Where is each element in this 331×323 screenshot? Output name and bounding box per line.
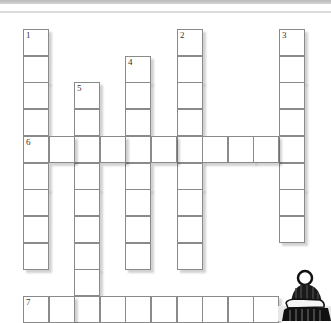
crossword-cell[interactable] (125, 136, 151, 163)
crossword-cell[interactable]: 2 (177, 29, 203, 56)
crossword-cell[interactable] (228, 136, 254, 163)
crossword-cell[interactable] (100, 296, 126, 323)
clue-number: 2 (180, 30, 185, 41)
crossword-cell[interactable] (23, 82, 49, 109)
crossword-cell[interactable]: 4 (125, 56, 151, 83)
crossword-cell[interactable] (279, 136, 305, 163)
crossword-cell[interactable] (279, 163, 305, 190)
crossword-cell[interactable] (74, 243, 100, 270)
crossword-cell[interactable] (125, 82, 151, 109)
crossword-cell[interactable] (177, 56, 203, 83)
crossword-cell[interactable] (23, 189, 49, 216)
crossword-cell[interactable] (125, 296, 151, 323)
crossword-cell[interactable] (74, 189, 100, 216)
crossword-cell[interactable] (23, 56, 49, 83)
crossword-cell[interactable] (202, 296, 228, 323)
crossword-cell[interactable] (202, 136, 228, 163)
crossword-cell[interactable] (74, 269, 100, 296)
crossword-cell[interactable] (177, 82, 203, 109)
crossword-cell[interactable] (177, 136, 203, 163)
clue-number: 7 (26, 297, 31, 308)
crossword-cell[interactable] (125, 189, 151, 216)
clue-number: 5 (77, 83, 82, 94)
crossword-cell[interactable] (125, 216, 151, 243)
crossword-cell[interactable] (49, 296, 75, 323)
crossword-cell[interactable] (177, 243, 203, 270)
crossword-cell[interactable] (23, 109, 49, 136)
crossword-cell[interactable]: 1 (23, 29, 49, 56)
crossword-cell[interactable] (151, 136, 177, 163)
crossword-cell[interactable] (279, 109, 305, 136)
clue-number: 6 (26, 137, 31, 148)
crossword-cell[interactable] (23, 163, 49, 190)
crossword-cell[interactable] (279, 216, 305, 243)
clue-number: 1 (26, 30, 31, 41)
crossword-cell[interactable] (279, 56, 305, 83)
crossword-cell[interactable]: 3 (279, 29, 305, 56)
crossword-cell[interactable]: 5 (74, 82, 100, 109)
crossword-cell[interactable] (177, 296, 203, 323)
crossword-cell[interactable] (125, 163, 151, 190)
crossword-cell[interactable] (125, 109, 151, 136)
crossword-cell[interactable] (151, 296, 177, 323)
winter-hat-character-icon (278, 266, 331, 321)
crossword-cell[interactable] (177, 216, 203, 243)
crossword-cell[interactable]: 7 (23, 296, 49, 323)
crossword-cell[interactable] (74, 163, 100, 190)
crossword-cell[interactable] (177, 163, 203, 190)
crossword-cell[interactable]: 6 (23, 136, 49, 163)
crossword-cell[interactable] (279, 189, 305, 216)
crossword-cell[interactable] (253, 296, 279, 323)
crossword-cell[interactable] (74, 109, 100, 136)
crossword-cell[interactable] (125, 243, 151, 270)
crossword-cell[interactable] (23, 216, 49, 243)
crossword-cell[interactable] (177, 189, 203, 216)
crossword-cell[interactable] (74, 136, 100, 163)
crossword-cell[interactable] (74, 216, 100, 243)
crossword-cell[interactable] (228, 296, 254, 323)
crossword-cell[interactable] (100, 136, 126, 163)
clue-number: 3 (282, 30, 287, 41)
clue-number: 4 (128, 57, 133, 68)
crossword-cell[interactable] (49, 136, 75, 163)
crossword-cell[interactable] (279, 82, 305, 109)
crossword-cell[interactable] (74, 296, 100, 323)
crossword-cell[interactable] (177, 109, 203, 136)
crossword-cell[interactable] (253, 136, 279, 163)
crossword-cell[interactable] (23, 243, 49, 270)
